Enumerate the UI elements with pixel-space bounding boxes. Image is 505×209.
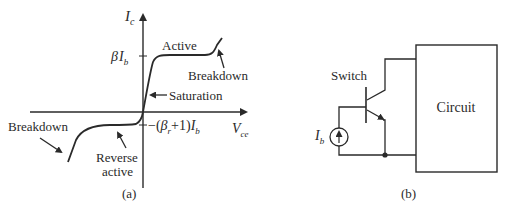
switch-label: Switch <box>331 68 368 83</box>
caption-b: (b) <box>401 186 416 201</box>
arrow-breakdown-reverse <box>40 138 61 152</box>
base-wire <box>339 107 366 128</box>
label-active: Active <box>162 38 197 53</box>
label-saturation: Saturation <box>169 88 223 103</box>
source-label: Ib <box>314 128 325 146</box>
arrow-reverse-active <box>118 133 126 148</box>
collector-wire <box>367 59 416 100</box>
caption-a: (a) <box>122 186 136 201</box>
emitter-wire <box>383 120 385 155</box>
x-axis-label: Vce <box>232 121 249 139</box>
figure-canvas: Ic Vce βIb −(βr+1)Ib Active Breakdown Sa… <box>0 0 505 209</box>
arrow-breakdown-forward <box>219 51 224 68</box>
transistor-emitter-arrow <box>367 110 383 119</box>
ground-return-wire <box>339 146 416 155</box>
circuit-label: Circuit <box>437 100 476 115</box>
figure-a-iv-characteristic: Ic Vce βIb −(βr+1)Ib Active Breakdown Sa… <box>8 8 249 201</box>
label-reverse-active-line2: active <box>102 164 133 179</box>
label-breakdown-forward: Breakdown <box>188 68 248 83</box>
tick-label-reverse-ib: −(βr+1)Ib <box>148 118 200 136</box>
figure-b-switch-circuit: Circuit Switch Ib (b) <box>314 45 497 201</box>
junction-dot <box>382 152 387 157</box>
y-axis-label: Ic <box>124 8 135 27</box>
label-breakdown-reverse: Breakdown <box>8 119 68 134</box>
tick-label-beta-ib: βIb <box>110 49 129 67</box>
label-reverse-active-line1: Reverse <box>96 150 138 165</box>
